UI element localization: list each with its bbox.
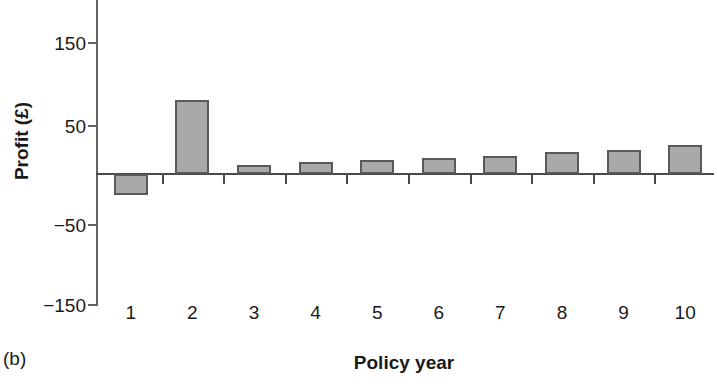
x-tick-mark-2 bbox=[223, 175, 225, 184]
panel-label: (b) bbox=[3, 348, 26, 370]
x-tick-mark-7 bbox=[531, 175, 533, 184]
plot-area bbox=[0, 0, 718, 384]
bar-year-6 bbox=[422, 158, 456, 174]
x-tick-label-7: 7 bbox=[480, 303, 520, 322]
x-tick-mark-1 bbox=[162, 175, 164, 184]
x-tick-label-8: 8 bbox=[542, 303, 582, 322]
x-tick-mark-9 bbox=[654, 175, 656, 184]
y-tick-mark-neg150 bbox=[88, 304, 97, 306]
bar-year-9 bbox=[607, 150, 641, 174]
bar-year-1 bbox=[114, 174, 148, 195]
bar-year-10 bbox=[668, 145, 702, 174]
x-tick-label-4: 4 bbox=[296, 303, 336, 322]
x-tick-mark-4 bbox=[346, 175, 348, 184]
y-axis-line bbox=[96, 0, 98, 306]
bar-year-8 bbox=[545, 152, 579, 174]
chart-figure: Profit (£) 150 50 −50 −150 12345678910 P… bbox=[0, 0, 718, 384]
bar-year-3 bbox=[237, 165, 271, 174]
bar-year-7 bbox=[483, 156, 517, 174]
x-tick-label-5: 5 bbox=[357, 303, 397, 322]
x-axis-label: Policy year bbox=[90, 352, 718, 374]
bar-year-4 bbox=[299, 162, 333, 174]
x-tick-label-1: 1 bbox=[111, 303, 151, 322]
x-tick-label-10: 10 bbox=[665, 303, 705, 322]
x-tick-label-9: 9 bbox=[604, 303, 644, 322]
y-tick-mark-50 bbox=[88, 125, 97, 127]
x-tick-mark-8 bbox=[593, 175, 595, 184]
x-tick-label-2: 2 bbox=[172, 303, 212, 322]
y-tick-mark-150 bbox=[88, 42, 97, 44]
x-tick-mark-3 bbox=[285, 175, 287, 184]
bar-year-5 bbox=[360, 160, 394, 174]
x-tick-mark-5 bbox=[408, 175, 410, 184]
x-tick-mark-6 bbox=[470, 175, 472, 184]
x-tick-label-3: 3 bbox=[234, 303, 274, 322]
bar-year-2 bbox=[175, 100, 209, 174]
x-tick-label-6: 6 bbox=[419, 303, 459, 322]
y-tick-mark-neg50 bbox=[88, 224, 97, 226]
